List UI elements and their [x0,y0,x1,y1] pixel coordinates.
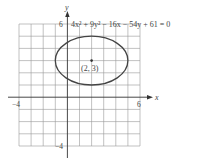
x-min-tick-label: −4 [12,100,20,109]
center-label: (2, 3) [81,64,99,73]
y-max-tick-label: 6 [59,20,63,29]
x-axis-label: x [154,93,159,102]
center-point [90,59,93,62]
x-axis-arrow-icon [147,95,153,99]
y-axis-label: y [64,3,69,12]
x-max-tick-label: 6 [137,100,141,109]
equation-label: 4x² + 9y² − 16x − 54y + 61 = 0 [71,20,170,29]
grid [19,24,140,146]
ellipse-graph: y x 6 −4 −4 6 (2, 3) 4x² + 9y² − 16x − 5… [0,0,205,167]
y-min-tick-label: −4 [55,142,63,151]
axes [8,14,150,158]
